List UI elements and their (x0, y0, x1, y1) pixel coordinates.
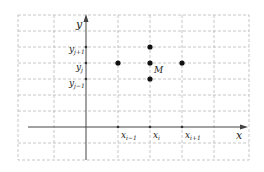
point-bottom-neighbor (147, 76, 152, 81)
y-axis-label: y (75, 18, 83, 31)
x-tick-label-i: xi (153, 130, 160, 141)
point-right-neighbor (179, 60, 184, 65)
five-point-stencil-diagram: y x yj+1 yj yj−1 xi−1 xi xi+1 M (0, 0, 264, 172)
axis-ticks (85, 46, 184, 129)
y-tick-label-j: yj (75, 62, 83, 74)
x-tick-label-i-minus-1: xi−1 (121, 130, 137, 141)
y-tick-label-j-plus-1: yj+1 (68, 44, 85, 56)
x-tick-label-i-plus-1: xi+1 (185, 130, 201, 141)
point-center-M (147, 60, 152, 65)
x-axis-label: x (236, 129, 243, 142)
center-point-label: M (153, 65, 164, 75)
y-tick-label-j-minus-1: yj−1 (68, 78, 85, 90)
point-left-neighbor (115, 60, 120, 65)
point-top-neighbor (147, 44, 152, 49)
